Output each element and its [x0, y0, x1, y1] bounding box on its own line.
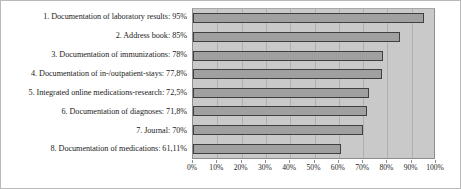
bar-row: [193, 84, 434, 103]
bar: [193, 144, 341, 154]
x-tick-label: 40%: [282, 164, 296, 172]
category-label: 5. Integrated online medications-researc…: [28, 89, 187, 97]
bar: [193, 32, 400, 42]
x-tick-label: 0%: [187, 164, 197, 172]
category-label: 2. Address book: 85%: [116, 32, 187, 40]
category-label: 7. Journal: 70%: [136, 127, 187, 135]
category-label: 8. Documentation of medications: 61,11%: [51, 145, 187, 153]
category-label-row: 3. Documentation of immunizations: 78%: [5, 46, 190, 65]
plot-area: [192, 8, 435, 159]
bar-row: [193, 65, 434, 84]
bar: [193, 69, 382, 79]
category-label: 1. Documentation of laboratory results: …: [43, 13, 187, 21]
category-label-row: 2. Address book: 85%: [5, 27, 190, 46]
category-label-row: 6. Documentation of diagnoses: 71,8%: [5, 102, 190, 121]
category-label-row: 7. Journal: 70%: [5, 121, 190, 140]
bar-row: [193, 139, 434, 158]
category-label: 4. Documentation of in-/outpatient-stays…: [31, 70, 187, 78]
x-tick-label: 10%: [209, 164, 223, 172]
x-axis: 0%10%20%30%40%50%60%70%80%90%100%: [192, 160, 435, 182]
x-tick-label: 90%: [404, 164, 418, 172]
bar-row: [193, 121, 434, 140]
bar: [193, 51, 383, 61]
bar-row: [193, 28, 434, 47]
category-label-row: 1. Documentation of laboratory results: …: [5, 8, 190, 27]
x-tick-label: 100%: [426, 164, 444, 172]
category-label-row: 5. Integrated online medications-researc…: [5, 84, 190, 103]
bar: [193, 88, 369, 98]
bar: [193, 13, 424, 23]
bar-row: [193, 46, 434, 65]
bar-row: [193, 9, 434, 28]
bar-chart-figure: 1. Documentation of laboratory results: …: [0, 0, 461, 189]
x-tick-label: 70%: [355, 164, 369, 172]
x-tick-label: 60%: [331, 164, 345, 172]
x-tick-label: 30%: [258, 164, 272, 172]
bar-row: [193, 102, 434, 121]
x-tick-label: 50%: [307, 164, 321, 172]
category-label: 6. Documentation of diagnoses: 71,8%: [61, 108, 187, 116]
category-label-column: 1. Documentation of laboratory results: …: [5, 8, 190, 159]
bar: [193, 106, 367, 116]
category-label: 3. Documentation of immunizations: 78%: [51, 51, 187, 59]
bar-series: [193, 9, 434, 158]
x-tick-label: 20%: [234, 164, 248, 172]
category-label-row: 4. Documentation of in-/outpatient-stays…: [5, 65, 190, 84]
bar: [193, 125, 363, 135]
category-label-row: 8. Documentation of medications: 61,11%: [5, 140, 190, 159]
x-tick-label: 80%: [379, 164, 393, 172]
